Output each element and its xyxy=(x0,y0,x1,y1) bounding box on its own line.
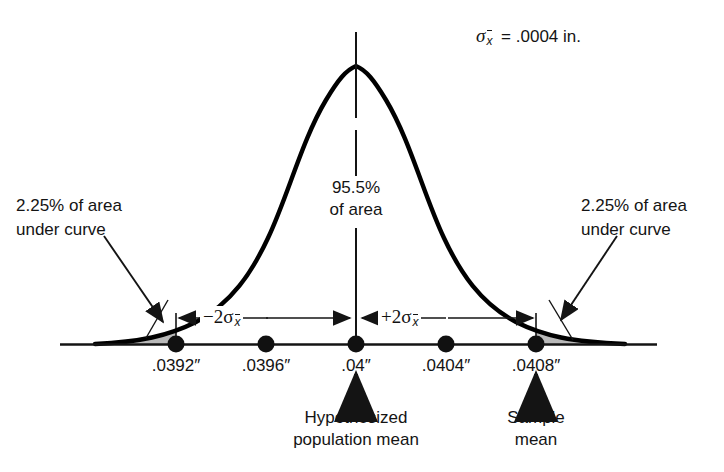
left-area-label-line2: under curve xyxy=(16,220,106,240)
hypothesized-mean-caption-line2: population mean xyxy=(266,430,446,450)
x-tick-label-04: .04″ xyxy=(306,356,406,376)
center-area-label-line1: 95.5% xyxy=(306,178,406,198)
minus-two-sigma-label: −2σx xyxy=(200,306,243,329)
plus-two-sigma-label: +2σx xyxy=(378,306,421,329)
sigma-subscript: x xyxy=(486,31,492,51)
left-area-leader-arrow xyxy=(104,236,163,322)
sample-mean-caption-line2: mean xyxy=(471,430,601,450)
standard-error-note: σx = .0004 in. xyxy=(476,26,581,51)
sigma-symbol: σ xyxy=(476,25,485,46)
x-tick-label-0408: .0408″ xyxy=(486,356,586,376)
x-tick-label-0404: .0404″ xyxy=(396,356,496,376)
right-area-label-line2: under curve xyxy=(581,220,671,240)
standard-error-value: = .0004 in. xyxy=(501,27,581,46)
point-marker-0404 xyxy=(438,336,455,353)
left-area-label-line1: 2.25% of area xyxy=(16,196,122,216)
point-marker-0408 xyxy=(528,336,545,353)
point-marker-0396 xyxy=(258,336,275,353)
x-tick-label-0392: .0392″ xyxy=(126,356,226,376)
point-marker-04 xyxy=(348,336,365,353)
point-marker-0392 xyxy=(168,336,185,353)
sample-mean-caption-line1: Sample xyxy=(471,408,601,428)
x-tick-label-0396: .0396″ xyxy=(216,356,316,376)
center-area-label-line2: of area xyxy=(306,200,406,220)
right-area-leader-arrow xyxy=(561,236,617,320)
hypothesized-mean-caption-line1: Hypothesized xyxy=(266,408,446,428)
right-area-label-line1: 2.25% of area xyxy=(581,196,687,216)
